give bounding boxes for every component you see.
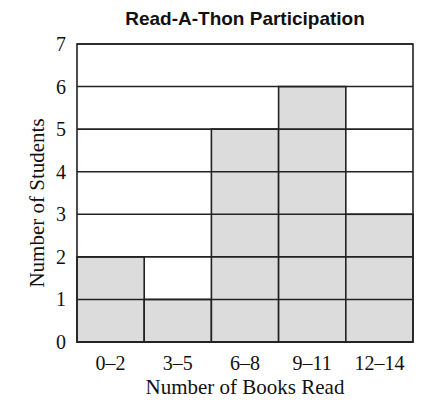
y-tick-label: 2 (56, 246, 66, 268)
y-axis-label: Number of Students (25, 118, 49, 287)
y-tick-label: 4 (56, 161, 66, 183)
histogram: 012345670–23–56–89–1112–14Number of Book… (0, 0, 434, 418)
y-tick-label: 0 (56, 331, 66, 353)
bar-2 (211, 129, 278, 342)
x-tick-label: 9–11 (293, 352, 332, 374)
y-tick-label: 3 (56, 203, 66, 225)
y-tick-label: 7 (56, 33, 66, 55)
x-tick-label: 3–5 (163, 352, 193, 374)
x-tick-label: 0–2 (96, 352, 126, 374)
bar-1 (144, 299, 211, 342)
y-tick-label: 1 (56, 288, 66, 310)
bar-4 (346, 214, 413, 342)
x-axis-label: Number of Books Read (146, 375, 345, 399)
y-tick-label: 5 (56, 118, 66, 140)
x-tick-label: 12–14 (354, 352, 404, 374)
x-tick-label: 6–8 (230, 352, 260, 374)
y-tick-label: 6 (56, 76, 66, 98)
